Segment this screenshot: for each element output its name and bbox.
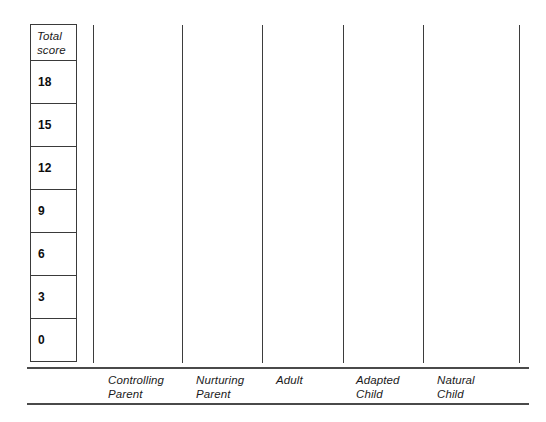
grid-line-2 — [182, 25, 183, 363]
score-chart-sheet: Total score 18 15 12 9 6 3 0 Controlling… — [0, 0, 546, 422]
column-label-line2: Child — [437, 388, 475, 402]
grid-line-6 — [519, 25, 520, 363]
column-label-line1: Controlling — [108, 374, 164, 388]
total-score-scale-table: Total score 18 15 12 9 6 3 0 — [30, 24, 77, 362]
axis-rule-top — [27, 367, 529, 369]
column-label-controlling-parent: Controlling Parent — [108, 374, 164, 401]
grid-line-1 — [93, 25, 94, 363]
scale-tick-15: 15 — [31, 104, 76, 147]
column-label-adapted-child: Adapted Child — [356, 374, 400, 401]
scale-tick-18: 18 — [31, 61, 76, 104]
grid-line-3 — [262, 25, 263, 363]
column-label-line1: Natural — [437, 374, 475, 388]
column-label-line1: Adapted — [356, 374, 400, 388]
grid-line-5 — [423, 25, 424, 363]
grid-line-4 — [343, 25, 344, 363]
column-label-line1: Nurturing — [196, 374, 244, 388]
axis-rule-bottom — [27, 403, 529, 405]
scale-header-cell: Total score — [31, 25, 76, 61]
column-label-adult: Adult — [276, 374, 303, 388]
column-label-line1: Adult — [276, 374, 303, 388]
scale-tick-6: 6 — [31, 233, 76, 276]
scale-header-line1: Total — [37, 29, 62, 43]
column-label-line2: Parent — [108, 388, 164, 402]
scale-header-line2: score — [37, 43, 66, 57]
scale-tick-9: 9 — [31, 190, 76, 233]
scale-tick-0: 0 — [31, 319, 76, 361]
column-label-line2: Child — [356, 388, 400, 402]
column-label-nurturing-parent: Nurturing Parent — [196, 374, 244, 401]
scale-tick-12: 12 — [31, 147, 76, 190]
column-label-natural-child: Natural Child — [437, 374, 475, 401]
column-label-line2: Parent — [196, 388, 244, 402]
scale-tick-3: 3 — [31, 276, 76, 319]
